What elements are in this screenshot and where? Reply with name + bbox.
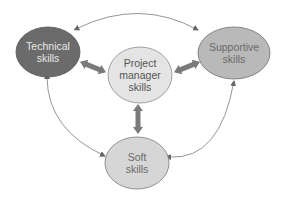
node-soft-skills xyxy=(105,137,169,189)
node-supportive-skills xyxy=(198,27,270,79)
edge-supportive-soft xyxy=(170,81,234,157)
skills-diagram xyxy=(0,0,283,200)
edge-technical-soft xyxy=(47,78,105,156)
thick-arrow-pm-soft xyxy=(133,104,143,134)
thick-arrow-supportive-pm xyxy=(172,57,202,77)
node-project-manager-skills xyxy=(108,47,172,103)
node-technical-skills xyxy=(16,27,80,77)
edge-technical-supportive xyxy=(78,13,198,30)
thick-arrow-technical-pm xyxy=(78,57,108,77)
